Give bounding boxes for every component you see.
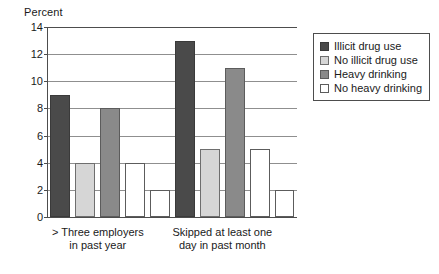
legend-item-label: No illicit drug use <box>334 54 418 66</box>
x-category-line: Skipped at least one <box>172 226 272 239</box>
legend-item-label: Heavy drinking <box>334 68 407 80</box>
y-tick-label-10: 10 <box>31 76 43 87</box>
legend-item-label: Illicit drug use <box>334 40 401 52</box>
gridline-14 <box>48 27 297 28</box>
bar <box>150 190 170 217</box>
bar <box>250 149 270 217</box>
legend-item: No heavy drinking <box>320 81 422 95</box>
y-tick-label-0: 0 <box>37 212 43 223</box>
legend-item: Illicit drug use <box>320 39 422 53</box>
plot-area: 02468101214 > Three employersin past yea… <box>47 27 297 218</box>
bar <box>75 163 95 217</box>
x-category-line: > Three employers <box>52 226 144 239</box>
bar <box>50 95 70 217</box>
light-gray-swatch <box>320 56 329 65</box>
y-tick-label-14: 14 <box>31 22 43 33</box>
y-tick-label-6: 6 <box>37 130 43 141</box>
legend: Illicit drug useNo illicit drug useHeavy… <box>313 33 430 101</box>
legend-item: Heavy drinking <box>320 67 422 81</box>
y-tick-label-12: 12 <box>31 49 43 60</box>
gridline-10 <box>48 81 297 82</box>
legend-item: No illicit drug use <box>320 53 422 67</box>
y-tick-label-4: 4 <box>37 157 43 168</box>
x-category-label-0: > Three employersin past year <box>52 226 144 252</box>
bar <box>175 41 195 217</box>
gridline-6 <box>48 136 297 137</box>
y-tick-label-2: 2 <box>37 184 43 195</box>
bar <box>125 163 145 217</box>
bar <box>225 68 245 217</box>
white-swatch <box>320 84 329 93</box>
y-tick-label-8: 8 <box>37 103 43 114</box>
gridline-8 <box>48 108 297 109</box>
bar <box>275 190 295 217</box>
x-category-line: in past year <box>52 239 144 252</box>
dark-gray-swatch <box>320 42 329 51</box>
x-category-line: day in past month <box>172 239 272 252</box>
bar <box>200 149 220 217</box>
y-axis-title: Percent <box>24 6 63 19</box>
medium-gray-swatch <box>320 70 329 79</box>
legend-item-label: No heavy drinking <box>334 82 422 94</box>
x-category-label-1: Skipped at least oneday in past month <box>172 226 272 252</box>
bar <box>100 108 120 217</box>
bar-chart-figure: Percent 02468101214 > Three employersin … <box>0 0 439 274</box>
gridline-12 <box>48 54 297 55</box>
y-tick-mark-0 <box>44 217 48 218</box>
